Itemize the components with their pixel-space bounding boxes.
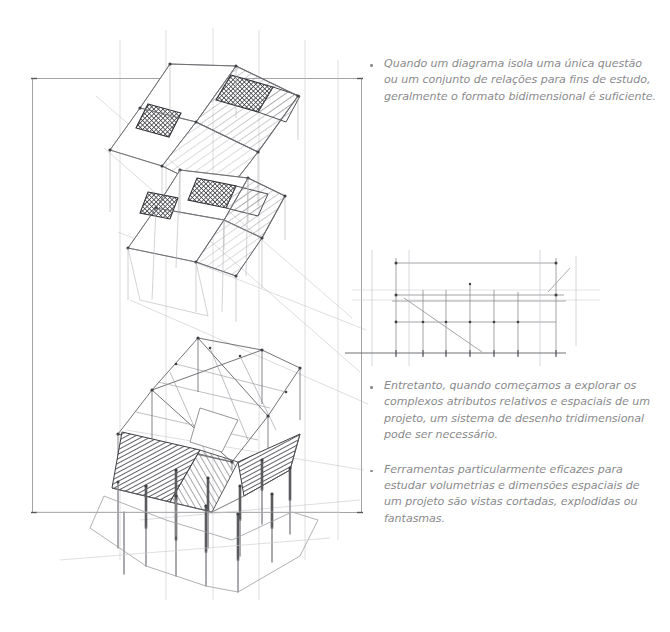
elevation-diagonal-top (548, 268, 570, 292)
bullet-group-lower: Entretanto, quando começamos a explorar … (368, 378, 658, 527)
level-middle-floor-plate (126, 168, 286, 322)
bullet-dot-icon (370, 386, 373, 389)
bullet-3d-system: Entretanto, quando começamos a explorar … (368, 378, 658, 444)
bullet-group-upper: Quando um diagrama isola uma única quest… (368, 56, 658, 105)
ground-datum-lines (36, 512, 340, 560)
bullet-dot-icon (370, 470, 373, 473)
bullet-3d-system-text: Entretanto, quando começamos a explorar … (384, 378, 658, 444)
elevation-sketch (345, 250, 600, 366)
bullet-cut-views-text: Ferramentas particularmente eficazes par… (384, 462, 658, 528)
bullet-2d-format-text: Quando um diagrama isola uma única quest… (384, 56, 658, 105)
bullet-cut-views: Ferramentas particularmente eficazes par… (368, 462, 658, 528)
page-canvas: Quando um diagrama isola uma única quest… (0, 0, 670, 632)
bullet-dot-icon (370, 64, 373, 67)
bullet-2d-format: Quando um diagrama isola uma única quest… (368, 56, 658, 105)
ground-slab-notch (190, 408, 238, 452)
